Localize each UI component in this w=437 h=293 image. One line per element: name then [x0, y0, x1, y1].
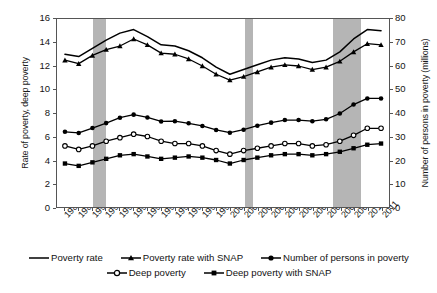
data-point	[241, 148, 246, 153]
data-point	[351, 102, 356, 107]
data-point	[117, 43, 122, 48]
data-point	[214, 128, 219, 133]
y-tick-left-label: 2	[20, 178, 50, 189]
y-tick-right-mark	[390, 137, 393, 138]
data-point	[63, 144, 68, 149]
legend-swatch-square-filled	[203, 268, 225, 278]
data-point	[186, 154, 190, 158]
data-point	[200, 124, 205, 129]
y-tick-right-mark	[390, 18, 393, 19]
data-point	[228, 130, 233, 135]
y-tick-right-label: 20	[395, 155, 425, 166]
data-point	[213, 72, 218, 77]
y-tick-left-label: 4	[20, 155, 50, 166]
data-point	[131, 152, 135, 156]
y-tick-right-label: 30	[395, 131, 425, 142]
data-point	[255, 155, 259, 159]
data-point	[269, 153, 273, 157]
data-point	[159, 157, 163, 161]
y-tick-right-label: 80	[395, 12, 425, 23]
y-tick-left-label: 14	[20, 36, 50, 47]
y-tick-right-mark	[390, 66, 393, 67]
y-tick-left-label: 8	[20, 107, 50, 118]
data-point	[296, 152, 300, 156]
data-point	[200, 144, 205, 149]
data-point	[77, 164, 81, 168]
series-poverty-rate-with-snap	[62, 36, 383, 82]
series-layer	[57, 19, 389, 207]
series-poverty-rate	[65, 30, 381, 75]
y-tick-right-mark	[390, 184, 393, 185]
data-point	[63, 161, 67, 165]
data-point	[104, 139, 109, 144]
data-point	[269, 144, 274, 149]
legend-item-deep-poverty-with-snap[interactable]: Deep poverty with SNAP	[203, 267, 332, 278]
data-point	[338, 111, 343, 116]
data-point	[90, 160, 94, 164]
data-point	[63, 130, 68, 135]
data-point	[310, 144, 315, 149]
series-number-of-persons-in-poverty	[63, 96, 384, 135]
legend-item-deep-poverty[interactable]: Deep poverty	[106, 267, 186, 278]
legend-item-poverty-rate-with-snap[interactable]: Poverty rate with SNAP	[120, 252, 243, 263]
y-tick-right-label: 60	[395, 60, 425, 71]
data-point	[159, 139, 164, 144]
data-point	[365, 143, 369, 147]
data-point	[186, 141, 191, 146]
data-point	[269, 120, 274, 125]
data-point	[173, 119, 178, 124]
data-point	[283, 152, 287, 156]
data-point	[351, 49, 356, 54]
y-tick-left-label: 16	[20, 12, 50, 23]
series-deep-poverty-with-snap	[63, 141, 383, 168]
data-point	[228, 152, 233, 157]
legend-label: Number of persons in poverty	[283, 252, 409, 263]
legend-item-number-of-persons-in-poverty[interactable]: Number of persons in poverty	[260, 252, 409, 263]
y-tick-right-label: 40	[395, 107, 425, 118]
y-tick-left-label: 6	[20, 131, 50, 142]
data-point	[214, 148, 219, 153]
y-tick-right-label: 50	[395, 83, 425, 94]
data-point	[351, 133, 356, 138]
chart-legend: Poverty ratePoverty rate with SNAPNumber…	[0, 250, 437, 280]
data-point	[296, 118, 301, 123]
legend-label: Poverty rate with SNAP	[143, 252, 243, 263]
data-point	[310, 153, 314, 157]
data-point	[324, 117, 329, 122]
data-point	[145, 115, 150, 120]
legend-item-poverty-rate[interactable]: Poverty rate	[28, 252, 103, 263]
legend-row: Poverty ratePoverty rate with SNAPNumber…	[0, 250, 437, 265]
data-point	[379, 141, 383, 145]
legend-swatch-circle-open	[106, 268, 128, 278]
data-point	[338, 139, 343, 144]
y-tick-left-mark	[53, 208, 56, 209]
legend-swatch-triangle	[120, 253, 142, 263]
legend-swatch-none	[28, 253, 50, 263]
data-point	[145, 134, 150, 139]
data-point	[159, 119, 164, 124]
data-point	[104, 121, 109, 126]
y-tick-left-label: 10	[20, 83, 50, 94]
data-point	[118, 135, 123, 140]
data-point	[241, 127, 246, 132]
y-tick-right-label: 10	[395, 178, 425, 189]
data-point	[365, 96, 370, 101]
data-point	[283, 118, 288, 123]
poverty-rate-chart: Rate of poverty, deep poverty Number of …	[0, 0, 437, 293]
data-point	[200, 155, 204, 159]
data-point	[145, 154, 149, 158]
data-point	[118, 153, 122, 157]
data-point	[296, 141, 301, 146]
data-point	[214, 158, 218, 162]
y-tick-left-label: 0	[20, 202, 50, 213]
data-point	[379, 96, 384, 101]
data-point	[255, 146, 260, 151]
legend-label: Deep poverty	[129, 267, 186, 278]
y-tick-right-label: 70	[395, 36, 425, 47]
data-point	[228, 161, 232, 165]
legend-label: Poverty rate	[51, 252, 103, 263]
data-point	[310, 119, 315, 124]
data-point	[379, 126, 384, 131]
data-point	[324, 142, 329, 147]
legend-row: Deep povertyDeep poverty with SNAP	[0, 265, 437, 280]
